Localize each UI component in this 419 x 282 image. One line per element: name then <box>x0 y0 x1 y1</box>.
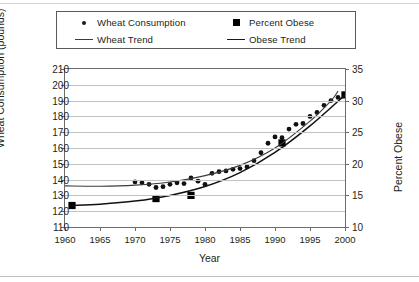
gridline <box>65 164 345 165</box>
y-tick-label-left: 180 <box>43 111 69 122</box>
x-tick <box>170 227 171 231</box>
plot-area <box>64 68 346 228</box>
y-tick-label-left: 150 <box>43 158 69 169</box>
dot-marker-icon <box>71 21 97 25</box>
gridline <box>65 85 345 86</box>
data-point <box>182 181 187 186</box>
x-tick <box>135 227 136 231</box>
gridline <box>65 132 345 133</box>
legend-label-percent-obese: Percent Obese <box>249 17 314 28</box>
x-tick <box>205 227 206 231</box>
data-point <box>259 150 264 155</box>
y-tick-label-left: 210 <box>43 64 69 75</box>
gridline <box>65 195 345 196</box>
y-tick-label-right: 10 <box>352 222 378 233</box>
data-point <box>161 184 166 189</box>
data-point <box>154 185 159 190</box>
top-divider <box>0 3 419 4</box>
y-tick-label-left: 130 <box>43 190 69 201</box>
square-marker-icon <box>223 19 249 26</box>
x-tick-label: 1990 <box>264 234 285 245</box>
y-tick-label-left: 190 <box>43 95 69 106</box>
legend-item-wheat-consumption: Wheat Consumption <box>71 14 186 31</box>
bottom-divider <box>0 276 419 277</box>
y-tick-label-right: 15 <box>352 190 378 201</box>
line-marker-icon <box>223 39 249 40</box>
y-tick-label-right: 25 <box>352 127 378 138</box>
y-tick-label-left: 160 <box>43 143 69 154</box>
y-axis-title-left: Wheat Consumption (pounds) <box>0 9 6 149</box>
x-tick <box>240 227 241 231</box>
legend-item-percent-obese: Percent Obese <box>223 14 314 31</box>
y-tick-right <box>345 132 349 133</box>
data-point <box>287 127 292 132</box>
x-tick-label: 1980 <box>194 234 215 245</box>
y-tick-label-left: 200 <box>43 79 69 90</box>
y-tick-label-right: 20 <box>352 158 378 169</box>
x-axis-title: Year <box>0 252 419 264</box>
data-point <box>322 103 327 108</box>
data-point <box>266 141 271 146</box>
y-tick-label-left: 140 <box>43 174 69 185</box>
data-point <box>294 122 299 127</box>
gridline <box>65 180 345 181</box>
gridline <box>65 211 345 212</box>
x-tick-label: 1995 <box>299 234 320 245</box>
x-tick <box>310 227 311 231</box>
x-tick-label: 1965 <box>89 234 110 245</box>
y-axis-title-right: Percent Obese <box>392 122 404 192</box>
x-tick <box>275 227 276 231</box>
x-tick-label: 1970 <box>124 234 145 245</box>
y-tick-right <box>345 195 349 196</box>
legend-row-2: Wheat Trend Obese Trend <box>57 31 355 48</box>
legend-label-wheat-trend: Wheat Trend <box>97 34 153 45</box>
chart-figure: Wheat Consumption Percent Obese Wheat Tr… <box>0 0 419 282</box>
x-tick-label: 1985 <box>229 234 250 245</box>
line-marker-icon <box>71 39 97 40</box>
gridline <box>65 101 345 102</box>
y-tick-label-left: 120 <box>43 206 69 217</box>
trend-line-obese-trend <box>72 95 345 206</box>
y-tick-right <box>345 101 349 102</box>
legend-item-wheat-trend: Wheat Trend <box>71 31 153 48</box>
legend-label-obese-trend: Obese Trend <box>249 34 306 45</box>
data-point <box>238 166 243 171</box>
x-tick <box>100 227 101 231</box>
legend-item-obese-trend: Obese Trend <box>223 31 306 48</box>
y-tick-label-right: 35 <box>352 64 378 75</box>
y-tick-label-right: 30 <box>352 95 378 106</box>
x-tick-label: 1960 <box>54 234 75 245</box>
y-tick-label-left: 170 <box>43 127 69 138</box>
data-point <box>273 135 278 140</box>
series-wheat-consumption <box>133 95 341 190</box>
x-tick <box>345 227 346 231</box>
x-tick-label: 1975 <box>159 234 180 245</box>
y-tick-label-left: 110 <box>43 222 69 233</box>
trend-line-wheat-trend <box>65 91 338 186</box>
y-tick-right <box>345 69 349 70</box>
chart-legend: Wheat Consumption Percent Obese Wheat Tr… <box>56 11 356 49</box>
gridline <box>65 148 345 149</box>
legend-row-1: Wheat Consumption Percent Obese <box>57 14 355 31</box>
gridline <box>65 116 345 117</box>
x-tick-label: 2000 <box>334 234 355 245</box>
series-percent-obese <box>68 91 345 209</box>
legend-label-wheat-consumption: Wheat Consumption <box>97 17 186 28</box>
y-tick-right <box>345 164 349 165</box>
